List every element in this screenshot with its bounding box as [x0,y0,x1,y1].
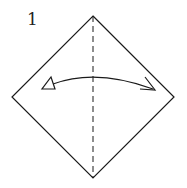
arrow-curve [53,77,153,89]
fold-unfold-arrow-icon [42,77,155,90]
hollow-arrowhead-icon [42,77,55,89]
open-arrowhead-icon [140,77,155,90]
diagram-canvas [0,0,187,188]
